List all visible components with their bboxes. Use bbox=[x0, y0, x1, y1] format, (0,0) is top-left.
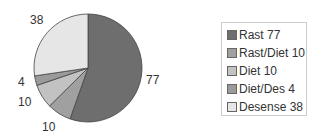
legend-item-diet: Diet 10 bbox=[227, 62, 306, 80]
data-label-rast-diet: 10 bbox=[42, 120, 55, 134]
data-label-diet: 10 bbox=[18, 95, 31, 109]
legend-item-rast: Rast 77 bbox=[227, 26, 306, 44]
data-label-desense: 38 bbox=[30, 13, 43, 27]
legend-swatch bbox=[227, 48, 237, 58]
legend-swatch bbox=[227, 66, 237, 76]
legend-item-rast-diet: Rast/Diet 10 bbox=[227, 44, 306, 62]
data-label-diet-des: 4 bbox=[18, 75, 25, 89]
legend-swatch bbox=[227, 30, 237, 40]
legend-item-diet-des: Diet/Des 4 bbox=[227, 80, 306, 98]
legend-swatch bbox=[227, 84, 237, 94]
chart-legend: Rast 77 Rast/Diet 10 Diet 10 Diet/Des 4 … bbox=[221, 22, 307, 116]
legend-swatch bbox=[227, 102, 237, 112]
legend-item-desense: Desense 38 bbox=[227, 98, 306, 116]
data-label-rast: 77 bbox=[146, 73, 159, 87]
